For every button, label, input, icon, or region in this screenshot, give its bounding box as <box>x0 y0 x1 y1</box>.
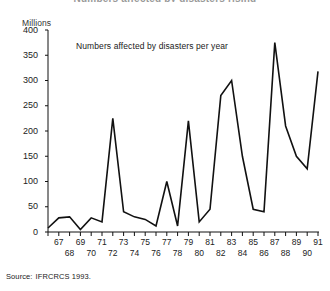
data-series-line <box>48 43 318 230</box>
x-tick-label-68: 68 <box>62 249 78 258</box>
x-tick-label-79: 79 <box>180 238 196 247</box>
y-tick-label: 0 <box>8 228 38 237</box>
x-tick-label-87: 87 <box>267 238 283 247</box>
x-tick-label-71: 71 <box>94 238 110 247</box>
x-tick-label-86: 86 <box>256 249 272 258</box>
x-tick-label-84: 84 <box>234 249 250 258</box>
source-note: Source:IFRCRCS 1993. <box>6 272 91 281</box>
x-tick-label-91: 91 <box>310 238 326 247</box>
y-tick-label: 350 <box>8 51 38 60</box>
x-axis-tick-marks <box>48 232 318 236</box>
x-tick-label-76: 76 <box>148 249 164 258</box>
x-tick-label-73: 73 <box>116 238 132 247</box>
y-tick-label: 50 <box>8 202 38 211</box>
x-tick-label-70: 70 <box>83 249 99 258</box>
x-tick-label-83: 83 <box>224 238 240 247</box>
x-tick-label-88: 88 <box>278 249 294 258</box>
y-tick-label: 150 <box>8 152 38 161</box>
x-tick-label-89: 89 <box>288 238 304 247</box>
source-text: IFRCRCS 1993. <box>36 272 92 281</box>
y-tick-label: 100 <box>8 177 38 186</box>
x-tick-label-75: 75 <box>137 238 153 247</box>
x-tick-label-78: 78 <box>170 249 186 258</box>
x-tick-label-82: 82 <box>213 249 229 258</box>
x-tick-label-81: 81 <box>202 238 218 247</box>
x-tick-label-69: 69 <box>72 238 88 247</box>
x-tick-label-72: 72 <box>105 249 121 258</box>
x-tick-label-85: 85 <box>245 238 261 247</box>
x-tick-label-74: 74 <box>126 249 142 258</box>
source-label: Source: <box>6 272 33 281</box>
y-tick-label: 200 <box>8 127 38 136</box>
x-tick-label-77: 77 <box>159 238 175 247</box>
x-tick-label-90: 90 <box>299 249 315 258</box>
x-tick-label-67: 67 <box>51 238 67 247</box>
y-tick-label: 400 <box>8 26 38 35</box>
chart-caption: Numbers affected by disasters per year <box>76 41 228 51</box>
y-tick-label: 300 <box>8 76 38 85</box>
y-tick-label: 250 <box>8 101 38 110</box>
figure-container: Numbers affected by disasters rising Mil… <box>0 0 330 291</box>
x-tick-label-80: 80 <box>191 249 207 258</box>
axes <box>48 30 319 232</box>
